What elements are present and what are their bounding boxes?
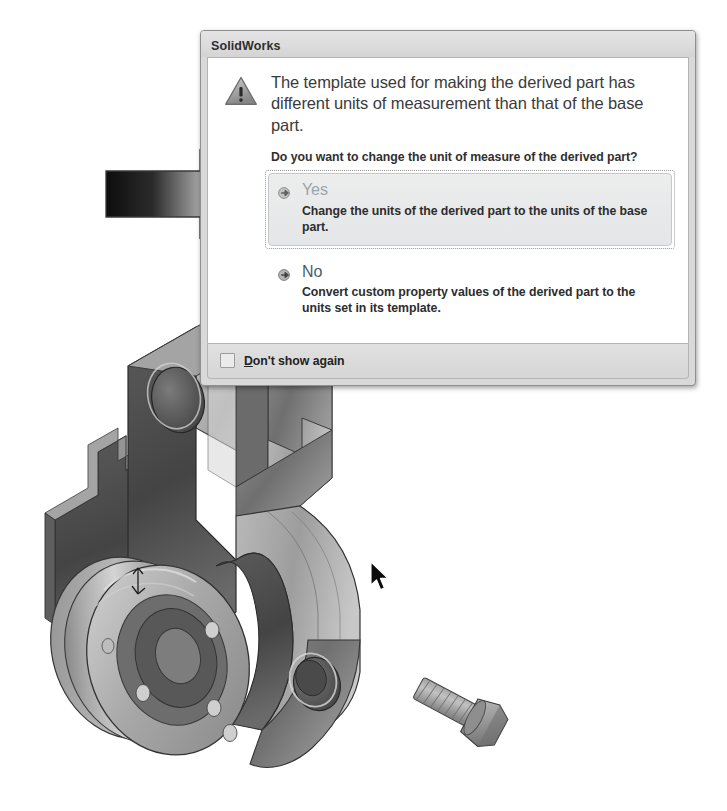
dialog-body: The template used for making the derived… [207, 57, 689, 343]
cad-hub-bore [287, 651, 347, 717]
cad-sweep-arm [216, 506, 360, 730]
warning-triangle-icon [224, 75, 258, 107]
cad-origin-triad [132, 568, 145, 594]
dialog-footer: Don't show again [207, 343, 689, 379]
command-link-no-description: Convert custom property values of the de… [302, 285, 663, 317]
main-instruction-text: The template used for making the derived… [271, 72, 672, 136]
command-link-yes-title: Yes [302, 181, 663, 199]
command-link-no-text: No Convert custom property values of the… [302, 263, 663, 317]
cad-right-boss [236, 418, 332, 530]
command-link-spacer [268, 246, 672, 255]
checkbox-unchecked-icon[interactable] [220, 353, 235, 368]
dialog-title: SolidWorks [211, 39, 281, 53]
cad-lower-hub [250, 640, 360, 767]
command-link-no-title: No [302, 263, 663, 281]
command-link-yes[interactable]: Yes Change the units of the derived part… [268, 173, 672, 245]
cad-circular-flange [30, 539, 272, 775]
dont-show-again-label-rest: on't show again [253, 354, 345, 368]
command-link-no[interactable]: No Convert custom property values of the… [268, 255, 672, 327]
cad-hex-bolt [407, 667, 512, 753]
cad-flange-bolt-holes [102, 622, 237, 742]
command-link-yes-description: Change the units of the derived part to … [302, 204, 663, 236]
solidworks-dialog: SolidWorks The template used for making … [200, 30, 696, 386]
mouse-pointer-icon [369, 561, 391, 593]
dialog-title-bar: SolidWorks [201, 31, 695, 57]
command-link-yes-text: Yes Change the units of the derived part… [302, 181, 663, 235]
arrow-bullet-icon [277, 185, 293, 201]
cad-rear-pad [45, 428, 170, 666]
accelerator-letter: D [244, 354, 253, 368]
sub-question-text: Do you want to change the unit of measur… [271, 150, 672, 164]
main-instruction-row: The template used for making the derived… [224, 72, 672, 136]
arrow-bullet-icon [277, 267, 293, 283]
dont-show-again-label[interactable]: Don't show again [244, 354, 345, 368]
command-link-list: Yes Change the units of the derived part… [268, 173, 672, 327]
